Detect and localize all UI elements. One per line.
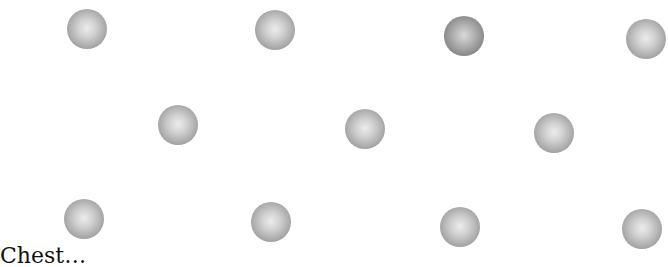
sphere-middle-1 — [158, 105, 198, 145]
sphere-bottom-1 — [64, 199, 104, 239]
sphere-top-2 — [255, 10, 295, 50]
sphere-middle-3 — [534, 113, 574, 153]
sphere-middle-2 — [345, 109, 385, 149]
sphere-bottom-3 — [440, 207, 480, 247]
sphere-top-4 — [626, 19, 666, 59]
figure-caption: Chest… — [0, 243, 86, 267]
sphere-bottom-4 — [622, 209, 662, 249]
sphere-top-1 — [67, 9, 107, 49]
sphere-bottom-2 — [251, 202, 291, 242]
sphere-top-3 — [444, 16, 484, 56]
